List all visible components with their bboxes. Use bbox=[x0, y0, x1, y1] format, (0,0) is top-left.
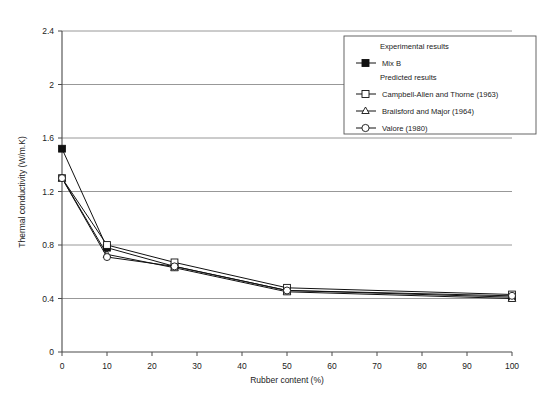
y-tick-label: 2 bbox=[49, 80, 54, 90]
filled-square-icon bbox=[362, 60, 369, 67]
x-tick-label: 0 bbox=[60, 361, 65, 371]
chart-legend: Experimental results Mix B Predicted res… bbox=[344, 36, 536, 134]
filled-square-marker bbox=[59, 145, 66, 152]
x-tick-label: 10 bbox=[102, 361, 112, 371]
open-circle-marker bbox=[59, 175, 66, 182]
x-tick-label: 40 bbox=[237, 361, 247, 371]
x-tick-label: 100 bbox=[505, 361, 519, 371]
open-circle-marker bbox=[509, 292, 516, 299]
y-tick-label: 2.4 bbox=[42, 26, 54, 36]
y-tick-label: 1.6 bbox=[42, 133, 54, 143]
x-tick-label: 70 bbox=[372, 361, 382, 371]
x-axis-title: Rubber content (%) bbox=[250, 375, 324, 385]
chart-figure: 00.40.81.21.622.4 0102030405060708090100… bbox=[0, 0, 560, 408]
x-tick-label: 90 bbox=[462, 361, 472, 371]
legend-heading-predicted: Predicted results bbox=[380, 73, 437, 82]
x-tick-label: 60 bbox=[327, 361, 337, 371]
open-circle-marker bbox=[171, 263, 178, 270]
legend-label-mix-b: Mix B bbox=[382, 59, 401, 68]
x-tick-label: 30 bbox=[192, 361, 202, 371]
open-circle-marker bbox=[284, 287, 291, 294]
legend-label-brailsford-major: Brailsford and Major (1964) bbox=[382, 107, 474, 116]
open-square-icon bbox=[362, 91, 369, 98]
legend-heading-experimental: Experimental results bbox=[380, 42, 449, 51]
y-tick-label: 0 bbox=[49, 347, 54, 357]
x-tick-label: 20 bbox=[147, 361, 157, 371]
x-tick-label: 50 bbox=[282, 361, 292, 371]
legend-label-valore: Valore (1980) bbox=[382, 124, 428, 133]
y-tick-label: 0.4 bbox=[42, 294, 54, 304]
open-circle-icon bbox=[362, 124, 369, 131]
y-axis-title: Thermal conductivity (W/m.K) bbox=[17, 136, 27, 248]
legend-label-campbell-allen: Campbell-Allen and Thorne (1963) bbox=[382, 90, 499, 99]
open-square-marker bbox=[104, 242, 111, 249]
y-tick-label: 0.8 bbox=[42, 240, 54, 250]
thermal-conductivity-line-chart: 00.40.81.21.622.4 0102030405060708090100… bbox=[0, 0, 560, 408]
legend-item-valore[interactable]: Valore (1980) bbox=[356, 124, 428, 133]
y-tick-label: 1.2 bbox=[42, 187, 54, 197]
open-circle-marker bbox=[104, 254, 111, 261]
x-tick-label: 80 bbox=[417, 361, 427, 371]
